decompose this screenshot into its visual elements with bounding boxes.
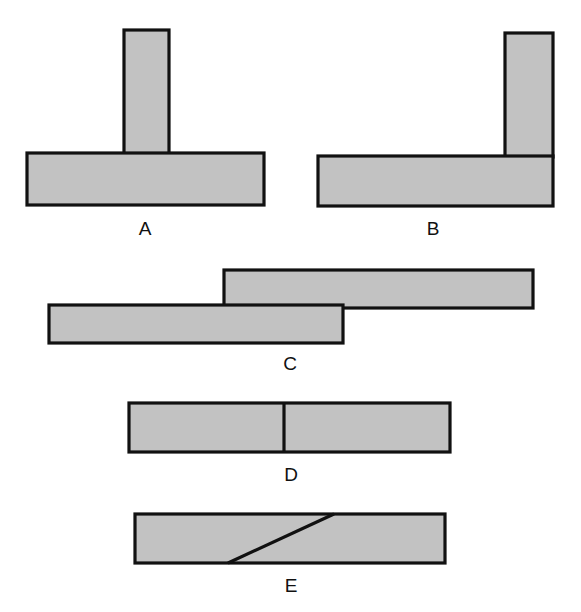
joint-c-lower-board — [49, 305, 343, 343]
joint-d-label: D — [284, 464, 298, 485]
joint-b-post — [505, 33, 553, 157]
joint-e-label: E — [285, 575, 298, 596]
joint-a-base — [27, 153, 264, 205]
joint-e: E — [135, 514, 445, 596]
joint-b: B — [318, 33, 553, 239]
joint-b-base — [318, 156, 553, 206]
joint-a-label: A — [139, 218, 152, 239]
wood-joints-diagram: A B C D E — [0, 0, 581, 612]
joint-c-upper-board — [224, 270, 533, 308]
joint-c: C — [49, 270, 533, 374]
joint-d-board — [129, 403, 450, 452]
joint-b-label: B — [427, 218, 440, 239]
joint-e-board — [135, 514, 445, 563]
joint-a-post — [124, 30, 169, 154]
joint-a: A — [27, 30, 264, 239]
joint-c-label: C — [283, 353, 297, 374]
joint-d: D — [129, 403, 450, 485]
